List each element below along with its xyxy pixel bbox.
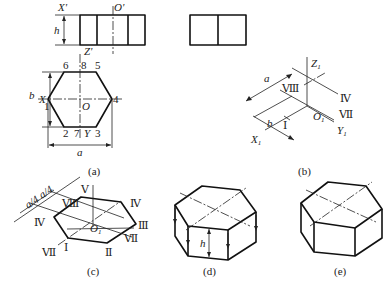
label-z-prime: Z'	[84, 45, 93, 57]
vertex-2: 2	[63, 127, 69, 139]
label-b: b	[29, 89, 35, 101]
point-v-c: Ⅴ	[80, 183, 90, 195]
caption-b: (b)	[298, 165, 311, 178]
label-h-d: h	[200, 237, 206, 249]
top-face-d	[175, 186, 256, 230]
vertex-5: 5	[95, 59, 101, 71]
caption-c: (c)	[87, 265, 100, 278]
label-z1: Z1	[311, 57, 321, 71]
point-vii-b: Ⅶ	[338, 108, 353, 120]
label-a-b: a	[264, 72, 270, 84]
midpoint-7: 7	[74, 127, 80, 139]
vertex-4: 4	[113, 93, 119, 105]
hexagonal-prism-isometric-figure: X' O' Z' h X O Y a b 1 2 3 4 5 6 7 8	[0, 0, 388, 281]
vertex-1: 1	[44, 100, 50, 112]
point-iv-right-c: Ⅳ	[130, 197, 142, 209]
label-x-prime: X'	[57, 1, 68, 13]
point-ii-c: Ⅱ	[105, 246, 112, 258]
label-o: O	[82, 100, 90, 112]
label-a: a	[77, 146, 83, 158]
point-iv-left-c: Ⅳ	[34, 216, 46, 228]
vertex-3: 3	[95, 127, 101, 139]
label-o-prime: O'	[114, 1, 125, 13]
point-viii-c: Ⅷ	[61, 197, 79, 209]
label-b-b: b	[267, 117, 273, 129]
point-vii-left-c: Ⅶ	[41, 246, 56, 258]
vertex-6: 6	[63, 59, 69, 71]
label-o1: O1	[313, 110, 324, 124]
panel-c-construction: a/4 a/4 Ⅴ Ⅷ Ⅳ Ⅳ Ⅲ Ⅶ Ⅱ Ⅰ Ⅶ O1 (c)	[14, 177, 149, 278]
dim-a4-2: a/4	[36, 183, 55, 201]
label-y1: Y1	[337, 124, 347, 138]
label-y: Y	[84, 127, 92, 139]
panel-e-prism: (e)	[301, 182, 382, 278]
top-view: X O Y a b 1 2 3 4 5 6 7 8 (a)	[29, 54, 122, 178]
caption-e: (e)	[334, 265, 347, 278]
label-o1-c: O1	[90, 222, 101, 236]
point-i-c: Ⅰ	[64, 241, 68, 253]
caption-d: (d)	[203, 265, 216, 278]
top-face-e	[301, 182, 382, 228]
point-i-b: Ⅰ	[283, 119, 287, 131]
label-h: h	[54, 24, 60, 36]
panel-d-prism: h (d)	[173, 186, 258, 278]
caption-a: (a)	[88, 165, 101, 178]
midpoint-8: 8	[81, 59, 87, 71]
side-view	[190, 15, 246, 45]
point-iv-b: Ⅳ	[340, 92, 352, 104]
point-viii-b: Ⅷ	[281, 82, 299, 94]
point-vii-right-c: Ⅶ	[123, 232, 138, 244]
panel-b-axes: Z1 O1 Y1 X1 a b Ⅷ Ⅳ Ⅶ Ⅰ (b)	[246, 57, 353, 178]
label-x1: X1	[250, 133, 261, 147]
point-iii-c: Ⅲ	[138, 219, 149, 231]
front-view: X' O' Z' h	[54, 1, 145, 57]
